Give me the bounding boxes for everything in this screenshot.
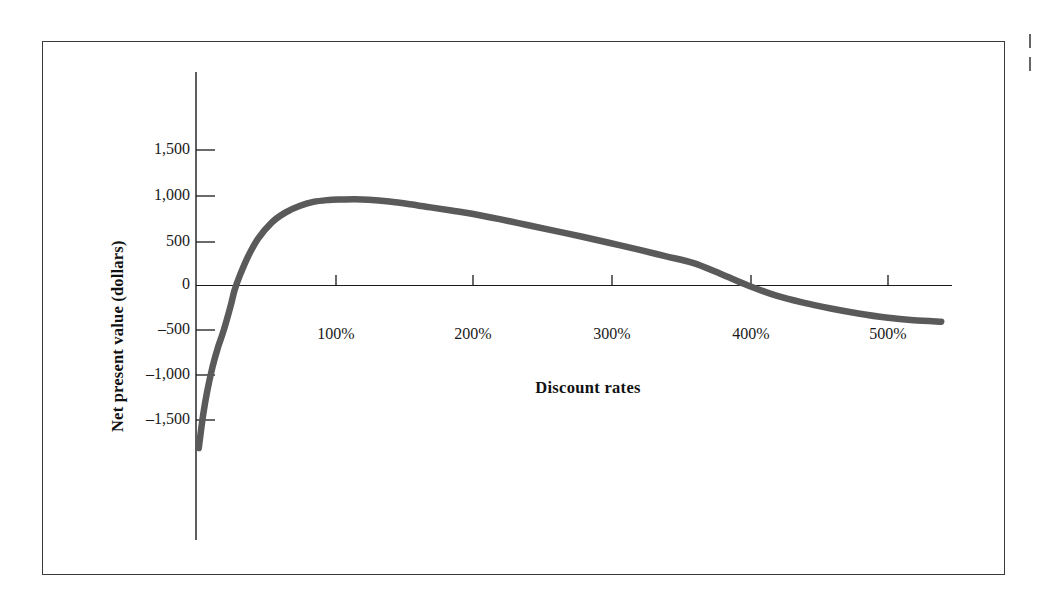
figure-frame: [42, 41, 1005, 575]
y-tick-label-1000: 1,000: [118, 186, 190, 204]
x-tick-label-300: 300%: [572, 325, 652, 343]
x-axis-title: Discount rates: [503, 378, 673, 398]
x-tick-label-500: 500%: [848, 325, 928, 343]
page-edge-mark-bottom: [1029, 57, 1031, 71]
y-tick-label-0: 0: [118, 275, 190, 293]
y-tick-label-500: 500: [118, 232, 190, 250]
x-tick-label-400: 400%: [711, 325, 791, 343]
page-edge-mark-top: [1029, 34, 1031, 48]
x-tick-label-100: 100%: [296, 325, 376, 343]
y-tick-label-neg500: –500: [113, 320, 190, 338]
y-tick-label-1500: 1,500: [118, 140, 190, 158]
x-tick-label-200: 200%: [433, 325, 513, 343]
y-tick-label-neg1000: –1,000: [113, 365, 190, 383]
y-tick-label-neg1500: –1,500: [113, 410, 190, 428]
figure-page: Net present value (dollars) Discount rat…: [0, 0, 1043, 605]
